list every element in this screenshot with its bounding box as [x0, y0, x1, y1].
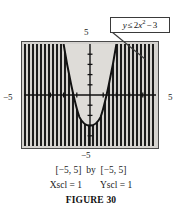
axis-label-right: 5: [168, 93, 173, 102]
axis-label-top: 5: [84, 28, 89, 37]
caption-yscl: Yscl = 1: [100, 178, 132, 193]
calculator-screen: [21, 41, 159, 149]
axis-label-bottom: −5: [81, 151, 91, 160]
caption-scale-row: Xscl = 1 Yscl = 1: [0, 178, 182, 193]
caption-window-range: [−5, 5] by [−5, 5]: [0, 163, 182, 178]
callout-relation-symbol: ≤: [127, 20, 134, 30]
inequality-expression: y≤2x2−3: [123, 21, 157, 30]
screen-viewport: [24, 44, 156, 146]
axes-and-curve: [24, 44, 156, 146]
figure-number-label: FIGURE 30: [0, 193, 182, 208]
figure-caption-block: [−5, 5] by [−5, 5] Xscl = 1 Yscl = 1 FIG…: [0, 163, 182, 208]
inequality-callout-box: y≤2x2−3: [110, 17, 170, 33]
caption-xscl: Xscl = 1: [50, 178, 82, 193]
callout-minus-symbol: −: [146, 20, 153, 30]
callout-constant: 3: [153, 20, 158, 30]
figure-30-graphing-calculator-screen: 5 −5 −5 5 y≤2x2−3 [−5, 5] by [−5, 5] Xsc…: [0, 0, 182, 215]
axis-label-left: −5: [3, 93, 13, 102]
